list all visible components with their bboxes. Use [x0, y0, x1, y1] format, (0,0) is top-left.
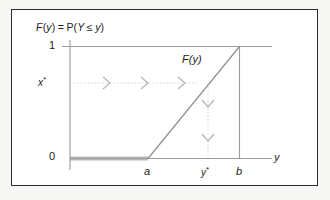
x-axis-label: y [274, 152, 280, 163]
y-tick-label-one: 1 [49, 40, 55, 51]
x-tick-label-a: a [144, 166, 150, 177]
y-star-asterisk: * [206, 165, 209, 174]
cdf-definition-label: F(y) = P(Y ≤ y) [36, 22, 104, 33]
figure-canvas: F(y) = P(Y ≤ y) 1 0 x* F(y) a y* b y [0, 0, 330, 200]
x-tick-label-b: b [236, 166, 242, 177]
x-star-label: x* [38, 76, 46, 88]
y-star-label: y* [201, 166, 209, 178]
y-tick-label-zero: 0 [49, 151, 55, 162]
x-star-asterisk: * [43, 75, 46, 84]
curve-label: F(y) [182, 54, 202, 65]
